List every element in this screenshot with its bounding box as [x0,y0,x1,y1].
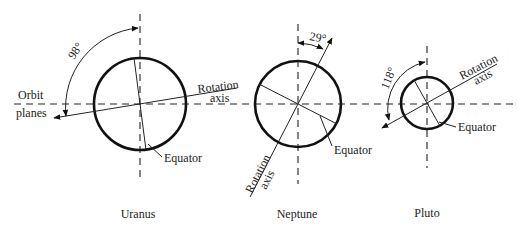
pluto-tilt-label: 118° [378,65,399,91]
uranus-name: Uranus [121,207,156,221]
neptune-name: Neptune [277,207,318,221]
neptune-equator-label: Equator [334,143,372,157]
uranus-rotation-label-2: axis [210,91,230,105]
pluto-name: Pluto [414,206,439,220]
neptune-tilt-label: 29° [308,29,327,46]
uranus-tilt-arc [66,28,138,116]
pluto-diagram: 118° Rotation axis Equator Pluto [378,46,500,220]
neptune-diagram: 29° Rotation axis Equator Neptune [242,24,372,221]
pluto-equator-label: Equator [458,120,496,134]
uranus-diagram: 98° Rotation axis Equator Uranus [54,14,239,221]
planet-axial-tilt-diagram: Orbit planes 98° Rotation axis Equator U… [0,0,518,228]
orbit-label-line1: Orbit [18,88,44,102]
uranus-equator-label: Equator [164,151,202,165]
orbit-label-line2: planes [16,106,47,120]
